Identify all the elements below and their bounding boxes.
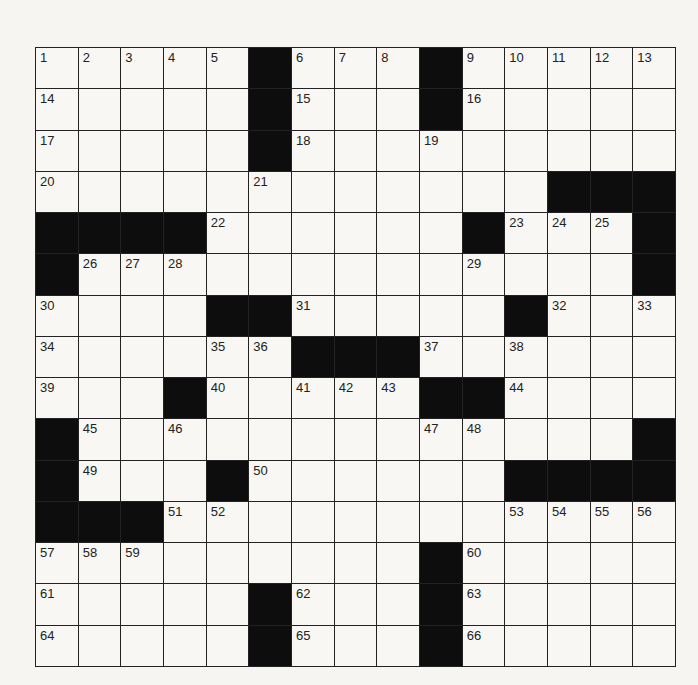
grid-cell[interactable] (249, 502, 291, 542)
grid-cell[interactable] (591, 584, 633, 624)
grid-cell[interactable]: 65 (292, 626, 334, 666)
grid-cell[interactable] (633, 626, 675, 666)
grid-cell[interactable] (463, 131, 505, 171)
grid-cell[interactable] (377, 213, 419, 253)
grid-cell[interactable] (164, 89, 206, 129)
grid-cell[interactable]: 10 (505, 48, 547, 88)
grid-cell[interactable] (164, 461, 206, 501)
grid-cell[interactable] (463, 461, 505, 501)
grid-cell[interactable]: 36 (249, 337, 291, 377)
grid-cell[interactable] (420, 502, 462, 542)
grid-cell[interactable] (591, 626, 633, 666)
grid-cell[interactable] (548, 89, 590, 129)
grid-cell[interactable] (121, 626, 163, 666)
grid-cell[interactable] (249, 419, 291, 459)
grid-cell[interactable]: 28 (164, 254, 206, 294)
grid-cell[interactable] (335, 626, 377, 666)
grid-cell[interactable] (79, 378, 121, 418)
grid-cell[interactable]: 29 (463, 254, 505, 294)
grid-cell[interactable] (292, 419, 334, 459)
grid-cell[interactable]: 45 (79, 419, 121, 459)
grid-cell[interactable]: 38 (505, 337, 547, 377)
grid-cell[interactable]: 58 (79, 543, 121, 583)
grid-cell[interactable] (633, 378, 675, 418)
grid-cell[interactable] (121, 337, 163, 377)
grid-cell[interactable] (591, 89, 633, 129)
grid-cell[interactable]: 54 (548, 502, 590, 542)
grid-cell[interactable] (633, 584, 675, 624)
grid-cell[interactable] (377, 419, 419, 459)
grid-cell[interactable] (505, 584, 547, 624)
grid-cell[interactable] (164, 172, 206, 212)
grid-cell[interactable]: 21 (249, 172, 291, 212)
grid-cell[interactable] (292, 543, 334, 583)
grid-cell[interactable]: 33 (633, 296, 675, 336)
grid-cell[interactable]: 55 (591, 502, 633, 542)
grid-cell[interactable] (420, 254, 462, 294)
grid-cell[interactable] (292, 172, 334, 212)
grid-cell[interactable]: 3 (121, 48, 163, 88)
grid-cell[interactable] (420, 172, 462, 212)
grid-cell[interactable] (505, 626, 547, 666)
grid-cell[interactable] (249, 378, 291, 418)
grid-cell[interactable] (505, 419, 547, 459)
grid-cell[interactable] (463, 172, 505, 212)
grid-cell[interactable] (420, 296, 462, 336)
grid-cell[interactable] (377, 502, 419, 542)
grid-cell[interactable]: 1 (36, 48, 78, 88)
grid-cell[interactable]: 48 (463, 419, 505, 459)
grid-cell[interactable]: 27 (121, 254, 163, 294)
grid-cell[interactable] (121, 419, 163, 459)
grid-cell[interactable]: 24 (548, 213, 590, 253)
grid-cell[interactable]: 13 (633, 48, 675, 88)
grid-cell[interactable]: 61 (36, 584, 78, 624)
grid-cell[interactable]: 47 (420, 419, 462, 459)
grid-cell[interactable]: 43 (377, 378, 419, 418)
grid-cell[interactable] (207, 131, 249, 171)
grid-cell[interactable] (292, 254, 334, 294)
grid-cell[interactable]: 25 (591, 213, 633, 253)
grid-cell[interactable] (292, 213, 334, 253)
grid-cell[interactable] (79, 626, 121, 666)
grid-cell[interactable]: 19 (420, 131, 462, 171)
grid-cell[interactable] (335, 89, 377, 129)
grid-cell[interactable]: 23 (505, 213, 547, 253)
grid-cell[interactable] (548, 254, 590, 294)
grid-cell[interactable]: 32 (548, 296, 590, 336)
grid-cell[interactable]: 56 (633, 502, 675, 542)
grid-cell[interactable]: 39 (36, 378, 78, 418)
grid-cell[interactable] (164, 296, 206, 336)
grid-cell[interactable] (633, 131, 675, 171)
grid-cell[interactable] (207, 584, 249, 624)
grid-cell[interactable]: 31 (292, 296, 334, 336)
grid-cell[interactable] (591, 131, 633, 171)
grid-cell[interactable] (548, 584, 590, 624)
grid-cell[interactable]: 46 (164, 419, 206, 459)
grid-cell[interactable] (207, 254, 249, 294)
grid-cell[interactable]: 57 (36, 543, 78, 583)
grid-cell[interactable]: 40 (207, 378, 249, 418)
grid-cell[interactable]: 30 (36, 296, 78, 336)
grid-cell[interactable] (377, 584, 419, 624)
grid-cell[interactable] (249, 213, 291, 253)
grid-cell[interactable] (420, 461, 462, 501)
grid-cell[interactable] (164, 337, 206, 377)
grid-cell[interactable] (207, 543, 249, 583)
grid-cell[interactable] (335, 419, 377, 459)
grid-cell[interactable]: 8 (377, 48, 419, 88)
grid-cell[interactable]: 26 (79, 254, 121, 294)
grid-cell[interactable] (377, 543, 419, 583)
grid-cell[interactable]: 16 (463, 89, 505, 129)
grid-cell[interactable] (121, 461, 163, 501)
grid-cell[interactable] (377, 172, 419, 212)
grid-cell[interactable] (377, 254, 419, 294)
grid-cell[interactable] (505, 543, 547, 583)
grid-cell[interactable] (164, 584, 206, 624)
grid-cell[interactable] (292, 461, 334, 501)
grid-cell[interactable]: 34 (36, 337, 78, 377)
grid-cell[interactable]: 51 (164, 502, 206, 542)
grid-cell[interactable] (79, 337, 121, 377)
grid-cell[interactable] (121, 89, 163, 129)
grid-cell[interactable] (548, 419, 590, 459)
grid-cell[interactable] (335, 584, 377, 624)
